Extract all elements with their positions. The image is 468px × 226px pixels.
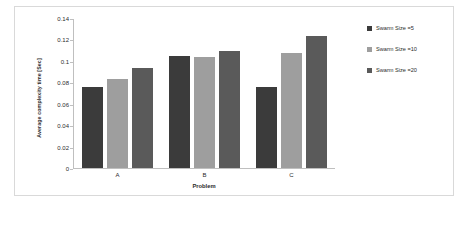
bar [281,53,302,168]
y-tick-label: 0.1 [61,59,69,65]
legend-item: Swarm Size =20 [367,67,453,73]
plot-canvas: 00.020.040.060.080.10.120.14 ABC [73,19,335,169]
y-tick-mark [70,148,73,149]
legend-swatch-icon [367,47,372,52]
y-axis-title: Average complexity time [Sec] [36,28,42,168]
x-axis-title: Problem [73,183,335,189]
bar [219,51,240,168]
chart-legend: Swarm Size =5Swarm Size =10Swarm Size =2… [367,25,453,88]
bar [107,79,128,168]
bar [194,57,215,168]
bar-group [161,19,248,168]
y-tick-label: 0.02 [57,145,69,151]
y-tick-mark [70,126,73,127]
legend-label: Swarm Size =20 [376,67,417,73]
bar [306,36,327,168]
x-tick-label: A [74,169,161,178]
x-tick-label: B [161,169,248,178]
bar [256,87,277,168]
legend-swatch-icon [367,26,372,31]
legend-label: Swarm Size =5 [376,25,414,31]
x-tick-label: C [248,169,335,178]
chart-plot-area: Average complexity time [Sec] 00.020.040… [14,6,454,196]
y-tick-mark [70,19,73,20]
y-tick-mark [70,169,73,170]
y-tick-mark [70,105,73,106]
bar-groups [74,19,335,168]
x-axis-tick-labels: ABC [74,169,335,178]
legend-swatch-icon [367,68,372,73]
bar [82,87,103,168]
bar-group [248,19,335,168]
bar-group [74,19,161,168]
legend-label: Swarm Size =10 [376,46,417,52]
y-tick-label: 0.12 [57,37,69,43]
chart-figure: Average complexity time [Sec] 00.020.040… [0,0,468,226]
y-tick-label: 0 [66,166,69,172]
y-tick-label: 0.14 [57,16,69,22]
legend-item: Swarm Size =5 [367,25,453,31]
bar [169,56,190,168]
y-tick-label: 0.04 [57,123,69,129]
y-tick-mark [70,83,73,84]
legend-item: Swarm Size =10 [367,46,453,52]
y-tick-label: 0.08 [57,80,69,86]
y-tick-mark [70,40,73,41]
y-tick-mark [70,62,73,63]
bar [132,68,153,168]
y-tick-label: 0.06 [57,102,69,108]
